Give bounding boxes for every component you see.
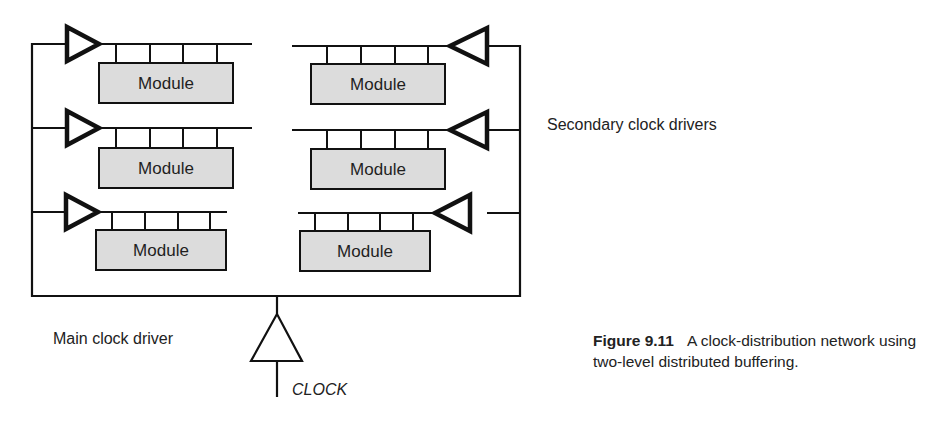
figure-caption: Figure 9.11 A clock-distribution network…	[593, 330, 933, 372]
module-label: Module	[138, 159, 194, 178]
left-branch-row-2: Module	[67, 111, 252, 188]
right-branch-row-1: Module	[292, 28, 487, 104]
left-branch-row-3: Module	[66, 195, 227, 270]
module-label: Module	[337, 242, 393, 261]
secondary-drivers-label: Secondary clock drivers	[547, 116, 717, 134]
secondary-driver-icon	[435, 195, 470, 231]
secondary-driver-icon	[67, 111, 99, 145]
secondary-driver-icon	[450, 112, 487, 148]
main-driver-icon	[251, 314, 302, 361]
secondary-driver-icon	[67, 27, 99, 61]
secondary-driver-icon	[450, 28, 487, 64]
figure-number: Figure 9.11	[593, 332, 674, 349]
module-label: Module	[350, 160, 406, 179]
module-label: Module	[133, 241, 189, 260]
clock-input-label: CLOCK	[292, 381, 347, 399]
right-branch-row-3: Module	[298, 195, 470, 271]
secondary-driver-icon	[66, 195, 98, 229]
module-label: Module	[350, 75, 406, 94]
right-branch-row-2: Module	[292, 112, 487, 189]
left-branch-row-1: Module	[67, 27, 252, 103]
main-driver-label: Main clock driver	[53, 330, 173, 348]
module-label: Module	[138, 74, 194, 93]
